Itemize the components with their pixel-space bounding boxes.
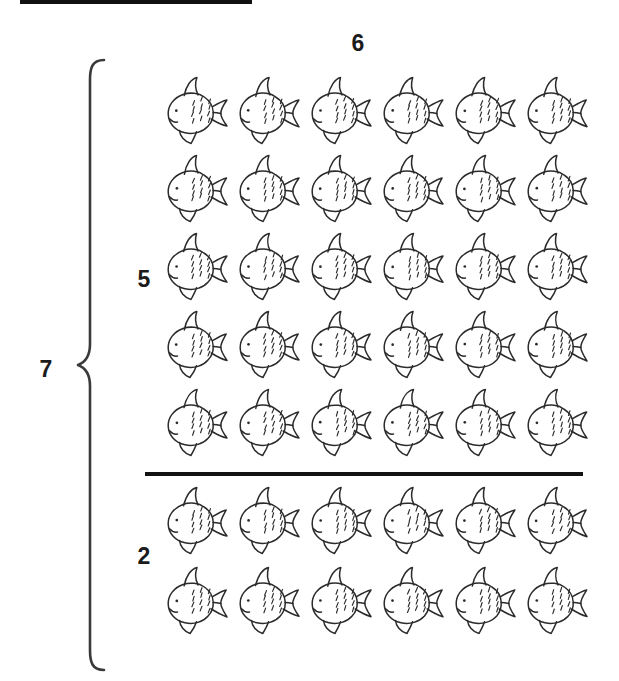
fish-icon: [164, 74, 230, 146]
columns-count-label: 6: [338, 32, 378, 55]
fish-icon: [524, 230, 590, 302]
fish-icon: [164, 564, 230, 636]
fish-icon: [452, 386, 518, 458]
fish-icon: [236, 74, 302, 146]
fish-icon: [164, 484, 230, 556]
fish-icon: [308, 74, 374, 146]
fish-icon: [380, 74, 446, 146]
fish-icon: [452, 564, 518, 636]
fish-icon: [380, 484, 446, 556]
fish-icon: [524, 386, 590, 458]
fish-icon: [236, 230, 302, 302]
fish-row: [0, 152, 619, 230]
fish-icon: [380, 386, 446, 458]
fish-icon: [380, 230, 446, 302]
worksheet-canvas: 6 7 5 2: [0, 0, 619, 681]
fish-icon: [164, 230, 230, 302]
fish-icon: [308, 152, 374, 224]
fish-icon: [236, 564, 302, 636]
fish-icon: [308, 484, 374, 556]
fish-icon: [308, 386, 374, 458]
fish-row: [0, 308, 619, 386]
fish-group-bottom: [0, 484, 619, 644]
fish-icon: [380, 564, 446, 636]
fish-icon: [308, 564, 374, 636]
fish-icon: [524, 564, 590, 636]
fish-icon: [308, 308, 374, 380]
fish-group-top: [0, 74, 619, 464]
fish-icon: [380, 308, 446, 380]
fish-icon: [236, 152, 302, 224]
fish-icon: [524, 152, 590, 224]
fish-icon: [164, 308, 230, 380]
fish-icon: [452, 484, 518, 556]
fish-icon: [164, 152, 230, 224]
group-divider-line: [145, 472, 583, 476]
fish-row: [0, 484, 619, 564]
fish-row: [0, 564, 619, 644]
fish-icon: [164, 386, 230, 458]
fish-icon: [524, 74, 590, 146]
fish-row: [0, 386, 619, 464]
fish-row: [0, 230, 619, 308]
fish-icon: [452, 308, 518, 380]
fish-icon: [308, 230, 374, 302]
fish-icon: [452, 152, 518, 224]
fish-icon: [236, 386, 302, 458]
fish-icon: [524, 308, 590, 380]
fish-icon: [236, 308, 302, 380]
fish-icon: [452, 230, 518, 302]
fish-icon: [452, 74, 518, 146]
scanned-page-edge-bar: [20, 0, 252, 4]
fish-icon: [524, 484, 590, 556]
fish-icon: [380, 152, 446, 224]
fish-icon: [236, 484, 302, 556]
fish-row: [0, 74, 619, 152]
